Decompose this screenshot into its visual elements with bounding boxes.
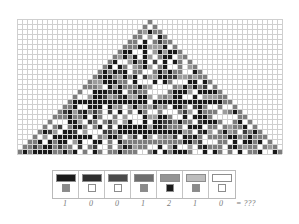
pixel-grid-panel: [17, 19, 285, 158]
digit-5: 1: [182, 199, 208, 209]
legend-bar-swatch: [186, 174, 206, 182]
legend-cell-5[interactable]: [183, 171, 209, 198]
legend-cell-2[interactable]: [105, 171, 131, 198]
legend-bar-swatch: [134, 174, 154, 182]
digit-6: 0: [208, 199, 234, 209]
legend-cell-4[interactable]: [157, 171, 183, 198]
legend-cell-3[interactable]: [131, 171, 157, 198]
legend-strip: [52, 170, 236, 199]
legend-small-swatch: [192, 184, 200, 192]
legend-cell-1[interactable]: [79, 171, 105, 198]
legend-cell-6[interactable]: [209, 171, 235, 198]
legend-small-swatch: [166, 184, 174, 192]
legend-bar-swatch: [108, 174, 128, 182]
digit-0: 1: [52, 199, 78, 209]
triangle-pixel-mosaic: [17, 19, 285, 158]
digit-3: 1: [130, 199, 156, 209]
legend-small-swatch: [218, 184, 226, 192]
legend-small-swatch: [62, 184, 70, 192]
legend-bar-swatch: [212, 174, 232, 182]
digit-4: 2: [156, 199, 182, 209]
legend-bar-swatch: [82, 174, 102, 182]
digit-1: 0: [78, 199, 104, 209]
digit-row: 1001210: [52, 199, 234, 209]
result-label: = ???: [236, 199, 255, 209]
legend-bar-swatch: [160, 174, 180, 182]
legend-small-swatch: [140, 184, 148, 192]
digit-2: 0: [104, 199, 130, 209]
legend-cell-0[interactable]: [53, 171, 79, 198]
legend-small-swatch: [88, 184, 96, 192]
diagram-canvas: 1001210 = ???: [0, 0, 299, 224]
legend-bar-swatch: [56, 174, 76, 182]
legend-small-swatch: [114, 184, 122, 192]
